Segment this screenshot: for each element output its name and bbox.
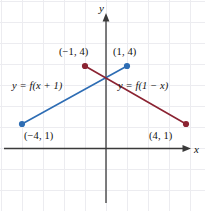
point-label-4-1: (4, 1)	[149, 131, 172, 142]
y-axis-arrow	[103, 13, 110, 22]
series-blue-line	[19, 63, 130, 127]
point-label-neg4-1: (−4, 1)	[24, 131, 53, 142]
series-red-line	[82, 63, 189, 127]
function-label-left: y = f(x + 1)	[12, 81, 62, 92]
point-marker-4-1	[183, 121, 189, 127]
x-axis-label: x	[194, 144, 199, 155]
function-label-right: y = f(1 − x)	[118, 81, 168, 92]
x-axis-arrow	[183, 145, 192, 152]
y-axis	[103, 13, 110, 203]
point-marker-neg1-4	[82, 63, 88, 69]
y-axis-label: y	[99, 3, 104, 14]
grid-lines	[0, 0, 205, 211]
point-label-neg1-4: (−1, 4)	[59, 47, 88, 58]
point-marker-neg4-1	[19, 121, 25, 127]
graph-figure: y x (−1, 4) (1, 4) (−4, 1) (4, 1) y = f(…	[0, 0, 205, 211]
x-axis	[4, 145, 191, 152]
point-label-1-4: (1, 4)	[113, 47, 136, 58]
coordinate-plane	[0, 0, 205, 211]
point-marker-1-4	[124, 63, 130, 69]
